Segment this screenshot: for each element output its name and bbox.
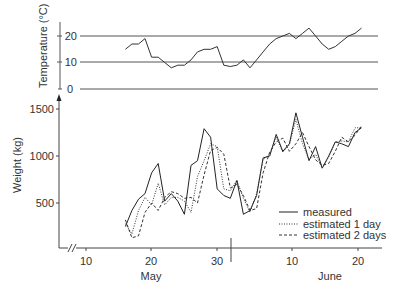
- weight-tick-1000: 1000: [30, 150, 54, 162]
- weight-tick-500: 500: [36, 197, 54, 209]
- legend-label-measured: measured: [303, 206, 352, 218]
- temperature-panel: Temperature (°C) 20 10 0: [37, 4, 378, 95]
- axis-break-icon: [68, 244, 76, 252]
- weight-ylabel: Weight (kg): [11, 137, 23, 193]
- month-label-may: May: [141, 270, 162, 282]
- x-tick-may-20: 20: [145, 255, 157, 267]
- axis-arrow-icon: [57, 94, 62, 101]
- x-tick-may-10: 10: [80, 255, 92, 267]
- temperature-ylabel: Temperature (°C): [37, 4, 49, 88]
- x-tick-june-20: 20: [352, 255, 364, 267]
- temp-tick-10: 10: [65, 56, 77, 68]
- x-tick-may-30: 30: [211, 255, 223, 267]
- month-label-june: June: [318, 270, 342, 282]
- weight-panel: Weight (kg) 1500 1000 500 10 20 30 10 20…: [11, 94, 392, 282]
- temp-tick-20: 20: [65, 30, 77, 42]
- legend: measured estimated 1 day estimated 2 day…: [272, 206, 392, 243]
- legend-label-estimated-2: estimated 2 days: [303, 229, 387, 241]
- chart: Temperature (°C) 20 10 0 Weight (kg) 150…: [0, 0, 398, 292]
- x-tick-june-10: 10: [286, 255, 298, 267]
- weight-tick-1500: 1500: [30, 103, 54, 115]
- temp-tick-0: 0: [67, 83, 73, 95]
